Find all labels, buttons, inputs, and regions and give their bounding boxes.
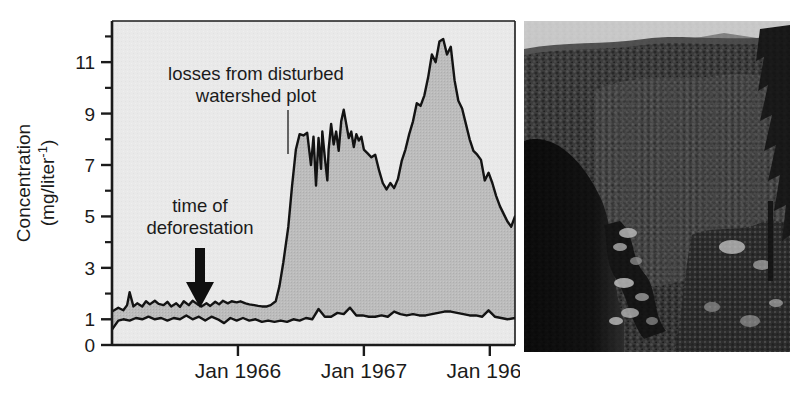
y-axis-title-line1: Concentration [13, 124, 34, 242]
y-axis-tick-label: 1 [84, 309, 95, 330]
watershed-photograph-svg [524, 21, 790, 352]
y-axis-title-line2: (mg/liter-1) [35, 140, 59, 227]
y-axis-title: Concentration (mg/liter-1) [13, 124, 58, 242]
x-axis-tick-label: Jan 1968 [447, 359, 520, 382]
photo-grain-overlay [524, 21, 790, 352]
annotation-disturbed-line1: losses from disturbed [168, 63, 344, 84]
y-axis-tick-label: 5 [84, 206, 95, 227]
y-axis-tick-label: 7 [84, 155, 95, 176]
x-axis-tick-label: Jan 1966 [195, 359, 281, 382]
figure-root: 01357911 Jan 1966Jan 1967Jan 1968 Concen… [0, 0, 806, 396]
y-axis-ticks [101, 36, 112, 345]
x-axis-tick-labels: Jan 1966Jan 1967Jan 1968 [195, 359, 520, 382]
annotation-disturbed-line2: watershed plot [195, 85, 316, 106]
x-axis-tick-label: Jan 1967 [321, 359, 407, 382]
annotation-deforestation-line1: time of [172, 195, 228, 216]
y-axis-tick-labels: 01357911 [75, 52, 95, 356]
y-axis-tick-label: 11 [75, 52, 95, 73]
annotation-deforestation-line2: deforestation [147, 217, 254, 238]
y-axis-tick-label: 9 [84, 104, 95, 125]
y-axis-tick-label: 0 [84, 335, 95, 356]
x-axis-ticks [238, 345, 490, 356]
y-axis-unit-text: (mg/liter [37, 157, 58, 226]
y-axis-unit-exponent: -1 [35, 146, 50, 158]
chart-svg: 01357911 Jan 1966Jan 1967Jan 1968 Concen… [0, 0, 520, 396]
nutrient-concentration-chart: 01357911 Jan 1966Jan 1967Jan 1968 Concen… [0, 0, 520, 396]
watershed-photograph [524, 21, 790, 352]
y-axis-tick-label: 3 [84, 258, 95, 279]
y-axis-unit-close: ) [37, 140, 58, 146]
